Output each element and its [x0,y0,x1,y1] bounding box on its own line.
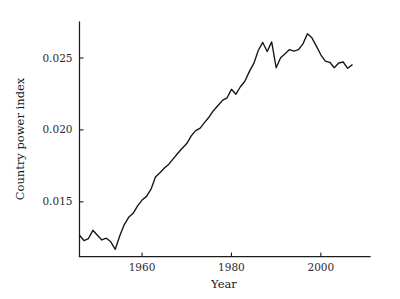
y-tick-label: 0.020 [42,123,72,135]
x-axis-title: Year [210,277,237,291]
axis-spines [80,22,371,257]
y-axis-title: Country power index [13,77,27,200]
y-tick-label: 0.025 [42,52,72,64]
series-line-country-power-index [80,34,353,250]
x-tick-labels: 196019802000 [129,261,335,273]
y-tick-labels: 0.0150.0200.025 [42,52,72,208]
y-tick-label: 0.015 [42,195,72,207]
line-chart: 196019802000 0.0150.0200.025 Year Countr… [0,0,400,299]
x-tick-label: 1980 [218,261,245,273]
chart-container: 196019802000 0.0150.0200.025 Year Countr… [0,0,400,299]
x-tick-label: 2000 [307,261,334,273]
x-tick-label: 1960 [129,261,156,273]
